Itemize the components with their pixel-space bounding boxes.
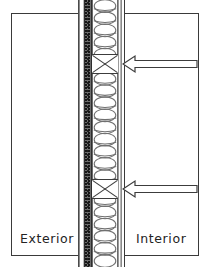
x-brace-icon: [92, 180, 118, 198]
blocking-lower: [92, 179, 118, 199]
layer-interior-finish-board: [121, 0, 125, 267]
layer-sheathing-membrane: [84, 0, 92, 267]
label-exterior: Exterior: [20, 231, 74, 246]
arrow-upper: [122, 53, 198, 75]
arrow-lower: [122, 178, 198, 200]
arrow-left-icon: [122, 53, 198, 75]
label-interior: Interior: [136, 231, 186, 246]
diagram-canvas: Exterior Interior: [0, 0, 210, 267]
blocking-upper: [92, 54, 118, 74]
x-brace-icon: [92, 55, 118, 73]
arrow-left-icon: [122, 178, 198, 200]
layer-stud-cavity: [92, 0, 118, 267]
